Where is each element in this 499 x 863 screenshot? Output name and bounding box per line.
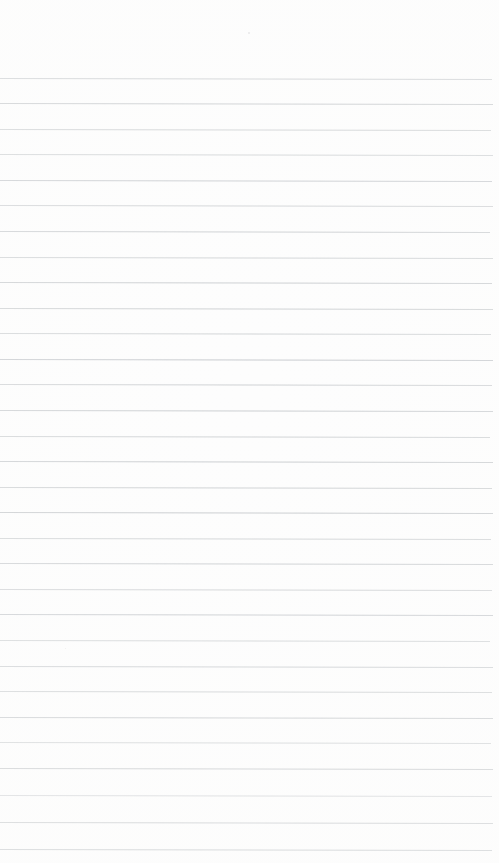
- lined-paper-page: [0, 0, 499, 863]
- page-text-content: [0, 0, 499, 863]
